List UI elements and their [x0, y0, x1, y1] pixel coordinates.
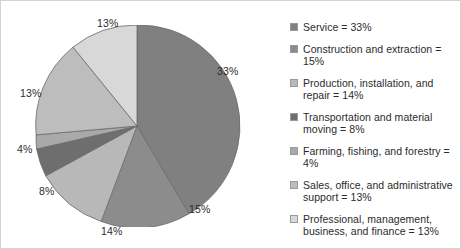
legend-swatch-construction-icon [290, 45, 298, 53]
pie-label-transportation: 8% [39, 185, 54, 197]
legend-swatch-production-icon [290, 79, 298, 87]
legend-swatch-service-icon [290, 23, 298, 31]
pie-label-production: 14% [101, 225, 122, 237]
legend-label-construction: Construction and extraction = 15% [303, 43, 453, 68]
pie-label-farming: 4% [17, 143, 32, 155]
legend-item-production[interactable]: Production, installation, and repair = 1… [290, 77, 453, 102]
legend-swatch-professional-icon [290, 215, 298, 223]
pie-graphic: 33% 15% 14% 8% 4% 13% 13% [9, 7, 281, 243]
pie-label-professional: 13% [97, 17, 118, 29]
legend-item-transportation[interactable]: Transportation and material moving = 8% [290, 111, 453, 136]
legend-label-professional: Professional, management, business, and … [303, 213, 453, 238]
pie-svg [31, 25, 243, 227]
legend-item-construction[interactable]: Construction and extraction = 15% [290, 43, 453, 68]
legend-item-professional[interactable]: Professional, management, business, and … [290, 213, 453, 238]
pie-plot-area: 33% 15% 14% 8% 4% 13% 13% [9, 7, 281, 243]
pie-label-construction: 15% [189, 203, 210, 215]
legend-swatch-sales-icon [290, 181, 298, 189]
legend-item-farming[interactable]: Farming, fishing, and forestry = 4% [290, 145, 453, 170]
pie-slices [36, 25, 240, 227]
legend-label-service: Service = 33% [303, 21, 372, 34]
legend-label-farming: Farming, fishing, and forestry = 4% [303, 145, 453, 170]
legend-item-sales[interactable]: Sales, office, and administrative suppor… [290, 179, 453, 204]
pie-label-sales: 13% [20, 87, 41, 99]
legend-label-transportation: Transportation and material moving = 8% [303, 111, 453, 136]
legend-swatch-transportation-icon [290, 113, 298, 121]
pie-chart-frame: 33% 15% 14% 8% 4% 13% 13% Service = 33% … [0, 0, 461, 249]
chart-legend: Service = 33% Construction and extractio… [290, 21, 453, 235]
legend-item-service[interactable]: Service = 33% [290, 21, 453, 34]
pie-label-service: 33% [217, 65, 238, 77]
legend-label-production: Production, installation, and repair = 1… [303, 77, 453, 102]
legend-label-sales: Sales, office, and administrative suppor… [303, 179, 453, 204]
legend-swatch-farming-icon [290, 147, 298, 155]
